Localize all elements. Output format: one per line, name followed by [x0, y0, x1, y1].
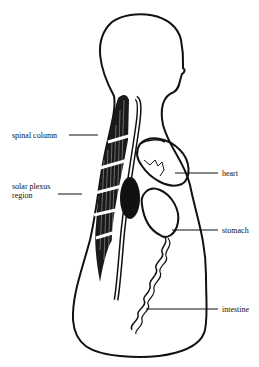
label-solar-plexus: solar plexus region — [12, 182, 50, 200]
label-solar-plexus-line1: solar plexus — [12, 182, 50, 191]
label-heart: heart — [222, 169, 238, 178]
label-solar-plexus-line2: region — [12, 191, 50, 200]
label-spinal-column: spinal column — [12, 131, 57, 140]
label-intestine: intestine — [222, 305, 249, 314]
body-outline — [73, 14, 207, 357]
label-stomach: stomach — [222, 226, 249, 235]
solar-plexus — [120, 177, 140, 219]
intestine-organ — [131, 236, 166, 330]
